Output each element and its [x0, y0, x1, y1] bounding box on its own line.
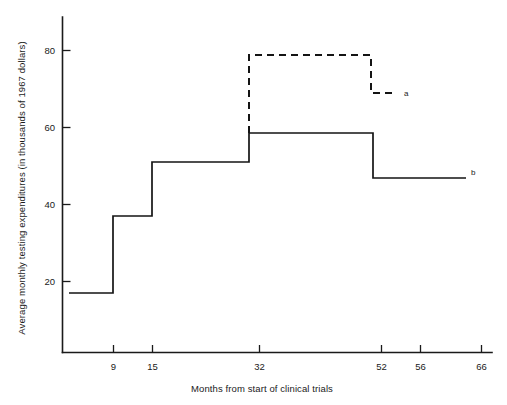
series-a-label: a [404, 89, 409, 98]
y-axis-title: Average monthly testing expenditures (in… [16, 41, 27, 334]
x-tick-label-66: 66 [476, 361, 487, 372]
y-axis-ticks: 80 60 40 20 [44, 45, 70, 287]
series-b-solid: b [69, 133, 476, 293]
y-tick-label-40: 40 [44, 199, 55, 210]
x-axis-title: Months from start of clinical trials [191, 383, 333, 394]
x-axis-ticks: 9 15 32 52 56 66 [111, 345, 487, 372]
y-tick-label-20: 20 [44, 276, 55, 287]
x-tick-label-52: 52 [376, 361, 387, 372]
series-a-dashed: a [249, 55, 409, 133]
x-tick-label-9: 9 [111, 361, 116, 372]
y-tick-label-80: 80 [44, 45, 55, 56]
series-b-label: b [471, 168, 476, 177]
x-tick-label-32: 32 [254, 361, 265, 372]
expenditures-step-chart: 80 60 40 20 9 15 32 52 56 66 a [0, 0, 507, 405]
x-tick-label-15: 15 [147, 361, 158, 372]
y-tick-label-60: 60 [44, 122, 55, 133]
chart-figure: 80 60 40 20 9 15 32 52 56 66 a [0, 0, 507, 405]
x-tick-label-56: 56 [415, 361, 426, 372]
axes [63, 17, 493, 353]
series-a-path [249, 55, 396, 133]
series-b-path [69, 133, 466, 293]
